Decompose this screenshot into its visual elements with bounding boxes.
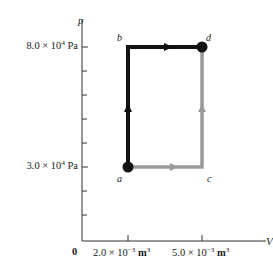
y-tick-label-8e4: 8.0 × 104 Pa [8,40,78,51]
y-ticks [82,47,88,215]
x-ticks [128,235,202,241]
arrow-up-icon [198,104,206,112]
point-label-d: d [206,32,211,43]
point-d-marker [197,42,208,53]
x-tick-label-2e-3: 2.0 × 10−3 m3 [93,247,150,258]
x-tick-label-5e-3: 5.0 × 10−3 m3 [172,247,229,258]
arrow-right-icon [164,43,173,51]
point-a-marker [123,162,134,173]
point-label-b: b [117,32,122,43]
path-a-c-d [128,47,206,171]
point-label-a: a [117,173,122,184]
point-label-c: c [207,173,211,184]
path-a-b-d [124,43,202,167]
y-tick-label-3e4: 3.0 × 104 Pa [8,160,78,171]
origin-label: 0 [72,246,77,257]
y-axis-label: p [78,14,84,26]
x-axis-label: V [266,235,273,247]
arrow-up-icon [124,103,132,112]
arrow-right-icon [170,163,178,171]
